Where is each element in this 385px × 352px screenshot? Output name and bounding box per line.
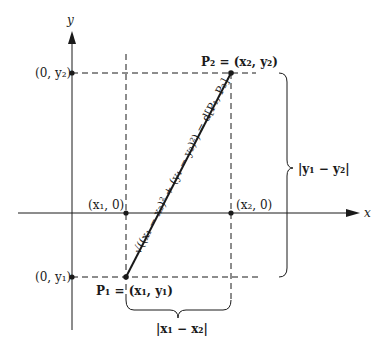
distance-formula-diagram: y x (0, y₂) (0, y₁) (x₁, 0) (x₂, 0) P₂ =…: [0, 0, 385, 352]
vertical-distance-label: |y₁ − y₂|: [298, 163, 350, 175]
horizontal-distance-label: |x₁ − x₂|: [156, 323, 208, 335]
y1-axis-label: (0, y₁): [35, 271, 71, 283]
p2-label: P₂ = (x₂, y₂): [201, 56, 278, 68]
x2-axis-label: (x₂, 0): [236, 199, 272, 211]
horizontal-brace-icon: [126, 300, 231, 318]
y-axis-label: y: [67, 14, 74, 26]
p1-label: P₁ = (x₁, y₁): [96, 285, 173, 297]
y-axis-arrow-icon: [68, 31, 76, 44]
y2-axis-label: (0, y₂): [35, 67, 71, 79]
diagram-canvas: [0, 0, 385, 352]
point-x2-on-axis: [228, 210, 233, 215]
point-x1-on-axis: [123, 210, 128, 215]
x-axis-arrow-icon: [346, 209, 360, 217]
vertical-brace-icon: [279, 73, 293, 277]
point-p2: [228, 70, 234, 76]
point-p1: [123, 274, 129, 280]
x-axis-label: x: [364, 207, 371, 219]
x1-axis-label: (x₁, 0): [88, 199, 124, 211]
